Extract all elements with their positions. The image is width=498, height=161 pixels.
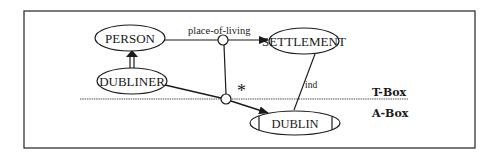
- subsumption-arrow: [126, 50, 138, 68]
- tbox-label: T-Box: [372, 86, 407, 99]
- individual-dublin[interactable]: DUBLIN: [250, 111, 340, 135]
- role-instance-node[interactable]: [221, 94, 231, 104]
- individual-label: DUBLIN: [271, 117, 318, 131]
- role-node[interactable]: [218, 35, 228, 45]
- concept-dubliner[interactable]: DUBLINER: [97, 68, 167, 94]
- dublin-edge: [231, 101, 268, 113]
- concept-person[interactable]: PERSON: [95, 25, 165, 51]
- diagram-canvas: PERSON DUBLINER SETTLEMENT DUBLIN place-…: [0, 0, 498, 161]
- role-label-place-of-living: place-of-living: [188, 25, 251, 36]
- concept-settlement[interactable]: SETTLEMENT: [262, 28, 346, 54]
- dubliner-edge: [165, 85, 221, 98]
- star-marker: *: [237, 81, 246, 101]
- role-label-ind: ind: [305, 80, 317, 90]
- concept-label: DUBLINER: [99, 74, 165, 89]
- abox-label: A-Box: [371, 107, 409, 120]
- role-instance-link: [224, 45, 226, 94]
- concept-label: SETTLEMENT: [262, 34, 346, 49]
- concept-label: PERSON: [105, 31, 155, 46]
